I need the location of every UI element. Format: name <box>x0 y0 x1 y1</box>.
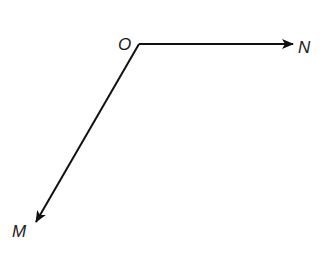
point-label-n: N <box>298 38 311 57</box>
angle-diagram: O N M <box>0 0 331 254</box>
point-label-m: M <box>12 222 27 241</box>
point-label-o: O <box>118 35 131 54</box>
ray-om <box>36 44 139 222</box>
